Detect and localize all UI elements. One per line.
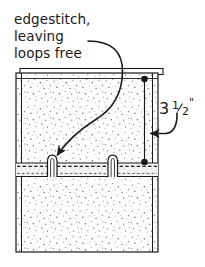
fabric-loop-right	[108, 155, 118, 177]
fabric-loop-left	[48, 155, 58, 177]
callout-line-2: leaving	[14, 28, 64, 44]
callout-line-3: loops free	[14, 45, 82, 61]
dimension-denominator: 2	[182, 105, 189, 118]
diagram-svg: edgestitch, leaving loops free 3 1 2 "	[0, 0, 205, 267]
dimension-unit: "	[189, 96, 194, 109]
illustration-canvas: edgestitch, leaving loops free 3 1 2 "	[0, 0, 205, 267]
dimension-dot-bottom	[141, 159, 148, 166]
loop-band	[16, 163, 158, 177]
dimension-whole: 3	[159, 99, 169, 118]
callout-line-1: edgestitch,	[14, 11, 91, 27]
dimension-dot-top	[141, 76, 148, 83]
